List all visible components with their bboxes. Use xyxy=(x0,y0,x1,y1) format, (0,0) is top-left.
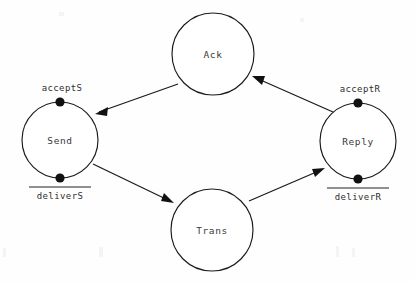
port-delivers[interactable]: deliverS xyxy=(29,173,91,200)
port-dot-acceptr[interactable] xyxy=(353,98,362,107)
edge-reply-to-ack xyxy=(252,76,333,112)
edge-trans-to-reply xyxy=(249,168,325,201)
port-label-delivers: deliverS xyxy=(37,191,84,201)
state-diagram: Ack Send Trans Reply acceptS deliverS ac… xyxy=(0,0,415,282)
edge-send-to-trans xyxy=(93,164,174,203)
port-label-deliverr: deliverR xyxy=(335,192,382,202)
node-label-ack: Ack xyxy=(204,49,223,60)
port-accepts[interactable]: acceptS xyxy=(42,83,83,107)
port-label-acceptr: acceptR xyxy=(340,84,381,94)
node-label-reply: Reply xyxy=(342,136,374,147)
arrowhead-reply-ack xyxy=(252,76,265,85)
edge-line-send-trans xyxy=(93,164,170,201)
port-dot-delivers[interactable] xyxy=(55,173,64,182)
arrowhead-send-trans xyxy=(161,193,174,203)
port-label-accepts: acceptS xyxy=(42,83,83,93)
edge-ack-to-send xyxy=(95,84,178,116)
arrowhead-ack-send xyxy=(95,107,108,116)
node-trans[interactable]: Trans xyxy=(171,189,253,271)
port-acceptr[interactable]: acceptR xyxy=(340,84,381,108)
node-label-trans: Trans xyxy=(196,225,228,236)
arrowhead-trans-reply xyxy=(312,168,325,177)
edge-line-trans-reply xyxy=(249,170,321,201)
edge-line-ack-send xyxy=(99,84,178,112)
edge-line-reply-ack xyxy=(256,78,333,112)
port-dot-accepts[interactable] xyxy=(55,97,64,106)
diagram-canvas: Ack Send Trans Reply acceptS deliverS ac… xyxy=(0,0,415,282)
node-label-send: Send xyxy=(47,135,72,146)
port-dot-deliverr[interactable] xyxy=(353,174,362,183)
node-send[interactable]: Send xyxy=(22,102,98,178)
port-deliverr[interactable]: deliverR xyxy=(327,174,389,201)
node-ack[interactable]: Ack xyxy=(172,13,254,95)
node-reply[interactable]: Reply xyxy=(320,103,396,179)
